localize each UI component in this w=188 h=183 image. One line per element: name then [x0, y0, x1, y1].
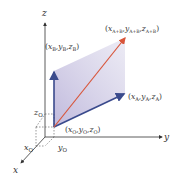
point-b-label: (xB,yB,zB) — [45, 42, 79, 52]
point-o-label: (xO,yO,zO) — [65, 125, 100, 135]
x-axis-label: x — [13, 165, 18, 175]
y0-label: yO — [57, 143, 68, 153]
x0-label: xO — [24, 143, 34, 153]
y-axis-label: y — [163, 132, 170, 142]
point-sum-label: (xA+B,yA+B,zA+B) — [105, 24, 159, 34]
z0-label: zO — [33, 108, 43, 118]
vector-addition-diagram: z y x zO xO yO (xO,yO,zO) (xA,yA,zA) (xB… — [0, 0, 188, 183]
point-a-label: (xA,yA,zA) — [128, 92, 162, 102]
z-axis-label: z — [41, 8, 47, 18]
